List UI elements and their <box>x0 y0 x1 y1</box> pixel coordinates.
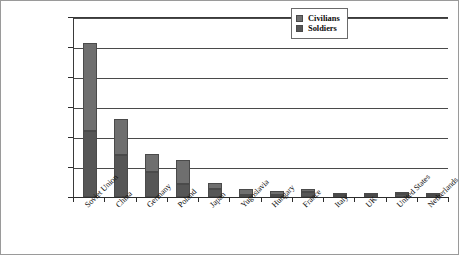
bar-segment-civilians[interactable] <box>114 119 128 155</box>
legend-color-swatch <box>296 25 303 32</box>
bar-segment-civilians[interactable] <box>145 154 159 172</box>
x-axis-tick-mark <box>354 197 355 202</box>
gridline <box>74 18 448 19</box>
plot-area <box>73 17 448 197</box>
x-axis-tick-mark <box>73 197 74 202</box>
gridline <box>74 48 448 49</box>
x-axis-tick-mark <box>323 197 324 202</box>
x-axis-tick-mark <box>167 197 168 202</box>
gridline <box>74 78 448 79</box>
x-axis-tick-mark <box>229 197 230 202</box>
x-axis-tick-mark <box>417 197 418 202</box>
x-axis-tick-mark <box>292 197 293 202</box>
x-axis-tick-mark <box>104 197 105 202</box>
gridline <box>74 108 448 109</box>
x-axis-tick-mark <box>261 197 262 202</box>
x-axis-tick-mark <box>386 197 387 202</box>
bar-segment-civilians[interactable] <box>83 43 97 131</box>
x-axis-tick-mark <box>136 197 137 202</box>
legend-item-label: Soldiers <box>308 24 337 33</box>
bar-stack[interactable] <box>83 43 97 197</box>
bar-stack[interactable] <box>114 119 128 197</box>
x-axis-tick-mark <box>448 197 449 202</box>
legend-color-swatch <box>296 15 303 22</box>
gridline <box>74 138 448 139</box>
bar-segment-civilians[interactable] <box>176 160 190 184</box>
legend-item[interactable]: Soldiers <box>296 24 340 33</box>
legend-item[interactable]: Civilians <box>296 14 340 23</box>
legend-item-label: Civilians <box>308 14 340 23</box>
bar-segment-soldiers[interactable] <box>83 131 97 197</box>
chart-container: 05,000,00010,000,00015,000,00020,000,000… <box>0 0 459 255</box>
gridline <box>74 168 448 169</box>
x-axis-tick-mark <box>198 197 199 202</box>
chart-legend: CiviliansSoldiers <box>291 8 348 39</box>
